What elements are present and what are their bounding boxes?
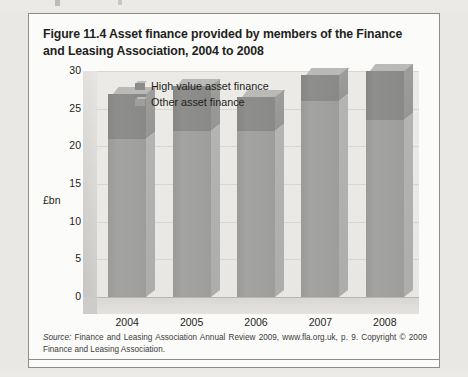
page-bottom-margin [0,369,468,377]
bar-side-high-value [404,64,413,120]
bar-2004 [108,87,146,297]
bar-2007 [301,68,339,297]
bar-segment-high-value [366,71,404,120]
legend-item-other: Other asset finance [135,96,269,110]
legend-swatch-high-value-icon [135,83,145,90]
source-prefix: Source: [43,333,71,342]
plot-floor-front [97,297,419,314]
bar-2006 [237,90,275,297]
x-axis-label-2008: 2008 [355,316,415,328]
figure-box: Figure 11.4 Asset finance provided by me… [28,13,440,368]
scanned-page: Figure 11.4 Asset finance provided by me… [0,0,468,377]
legend-label-high-value: High value asset finance [151,80,269,94]
bar-segment-other [173,131,211,297]
y-axis-tick-label: 20 [51,139,81,151]
y-axis-tick-label: 5 [51,252,81,264]
y-axis-tick-label: 0 [51,290,81,302]
bar-side-other [339,94,348,297]
source-text: Finance and Leasing Association Annual R… [43,333,427,354]
x-axis-label-2005: 2005 [162,316,222,328]
x-axis-label-2006: 2006 [226,316,286,328]
legend-swatch-other-icon [135,99,145,106]
bar-segment-other [108,139,146,297]
y-axis-tick-label: 15 [51,177,81,189]
bar-segment-high-value [301,75,339,101]
legend-label-other: Other asset finance [151,96,245,110]
y-axis-ticks: 051015202530 [43,66,81,314]
bar-segment-other [366,120,404,297]
plot-floor-left [83,297,98,314]
figure-title: Figure 11.4 Asset finance provided by me… [43,26,427,60]
page-top-margin [0,0,468,11]
scan-artifact-mark-2 [118,0,122,5]
bar-side-other [275,124,284,297]
chart-area: 051015202530 £bn 20042005200620072008 Hi… [43,66,427,324]
bar-side-other [404,113,413,297]
scan-artifact-mark [55,0,60,6]
bar-2008 [366,64,404,297]
chart-legend: High value asset finance Other asset fin… [135,80,269,111]
y-axis-tick-label: 25 [51,102,81,114]
bar-2005 [173,79,211,297]
x-axis-label-2004: 2004 [97,316,157,328]
figure-bottom-rule [29,359,439,360]
figure-source-note: Source: Finance and Leasing Association … [43,332,427,355]
bar-segment-other [301,101,339,297]
bar-segment-other [237,131,275,297]
y-axis-tick-label: 10 [51,215,81,227]
bar-side-other [146,132,155,297]
y-axis-tick-label: 30 [51,64,81,76]
plot-side-wall [83,71,98,297]
legend-item-high-value: High value asset finance [135,80,269,94]
y-axis-title: £bn [43,194,73,206]
bar-side-other [211,124,220,297]
x-axis-label-2007: 2007 [290,316,350,328]
